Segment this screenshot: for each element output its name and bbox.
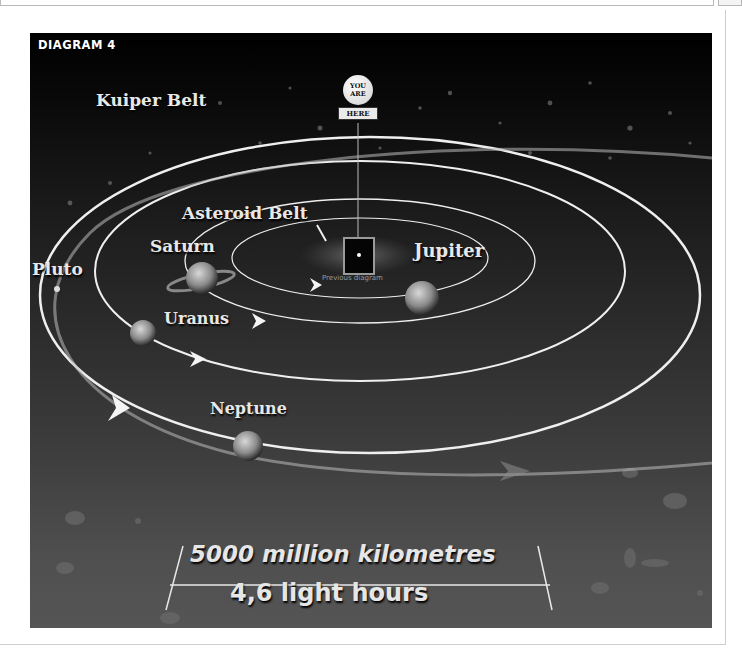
label-jupiter: Jupiter bbox=[414, 240, 484, 261]
scale-light-time: 4,6 light hours bbox=[230, 579, 428, 607]
label-kuiper-belt: Kuiper Belt bbox=[96, 90, 206, 110]
you-are-here-line1: YOU bbox=[350, 82, 366, 90]
you-are-here-badge: YOU ARE bbox=[343, 75, 373, 105]
scale-distance: 5000 million kilometres bbox=[190, 541, 496, 567]
you-are-here-line2: ARE bbox=[350, 90, 365, 98]
label-saturn: Saturn bbox=[150, 236, 215, 256]
planets bbox=[54, 262, 439, 461]
here-plate: HERE bbox=[338, 107, 378, 120]
label-uranus: Uranus bbox=[164, 309, 229, 328]
top-button[interactable] bbox=[718, 0, 742, 6]
label-neptune: Neptune bbox=[210, 399, 287, 418]
sun-icon bbox=[357, 253, 361, 257]
label-asteroid-belt: Asteroid Belt bbox=[182, 203, 307, 223]
orbits-illustration bbox=[30, 33, 712, 628]
solar-system-diagram: DIAGRAM 4 Kuiper Belt Asteroid Belt Satu… bbox=[30, 33, 712, 628]
diagram-title: DIAGRAM 4 bbox=[38, 38, 116, 52]
previous-diagram-thumbnail[interactable] bbox=[343, 237, 375, 275]
top-input-field[interactable] bbox=[0, 0, 714, 6]
previous-diagram-caption: Previous diagram bbox=[322, 274, 383, 282]
orbit-paths bbox=[40, 137, 712, 475]
you-are-here-sign: YOU ARE HERE bbox=[335, 75, 381, 120]
label-pluto: Pluto bbox=[32, 259, 83, 279]
